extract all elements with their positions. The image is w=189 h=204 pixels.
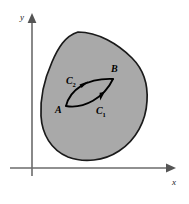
curve-label-c1-subscript: 1	[103, 111, 106, 118]
curve-label-c2-subscript: 2	[73, 81, 76, 88]
y-axis-label: y	[19, 12, 24, 22]
figure-container: y x A B C 2 C	[0, 0, 189, 204]
x-axis-label: x	[171, 177, 176, 187]
point-label-a: A	[54, 104, 62, 115]
vector-figure: y x A B C 2 C	[0, 0, 189, 204]
point-label-b: B	[110, 63, 118, 74]
